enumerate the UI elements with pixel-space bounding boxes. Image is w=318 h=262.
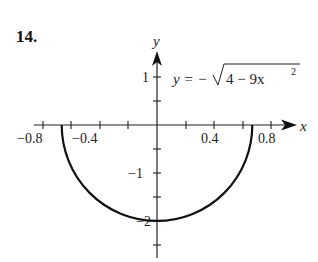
x-tick-label: −0.8 — [17, 131, 42, 146]
x-tick-label: −0.4 — [72, 131, 97, 146]
equation-lhs: y = − — [171, 71, 207, 87]
y-tick-label: −1 — [128, 166, 143, 181]
equation-radicand: 4 − 9x — [226, 71, 265, 87]
y-axis: 1 −1 −2 y — [128, 33, 162, 258]
equation-label: y = − 4 − 9x 2 — [171, 64, 300, 87]
x-axis: −0.8 −0.4 0.4 0.8 x — [17, 118, 307, 146]
problem-number: 14. — [16, 27, 37, 46]
x-axis-label: x — [299, 118, 307, 134]
x-tick-label: 0.4 — [201, 131, 219, 146]
x-tick-label: 0.8 — [258, 131, 276, 146]
equation-exponent: 2 — [291, 66, 296, 77]
y-tick-label: 1 — [142, 70, 149, 85]
chart: 14. −0.8 −0.4 0.4 0.8 x — [0, 0, 318, 262]
y-axis-label: y — [151, 33, 160, 49]
